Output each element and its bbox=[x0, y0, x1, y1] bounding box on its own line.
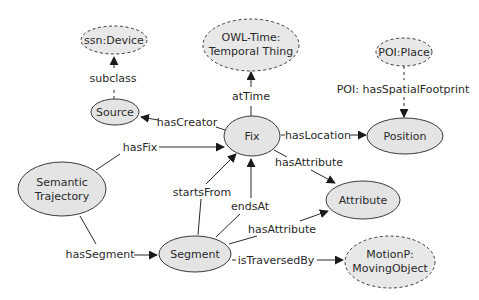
edge-poi-hasSpatialFootprint: POI: hasSpatialFootprint bbox=[337, 66, 470, 117]
node-label-ssn-device: ssn:Device bbox=[84, 34, 144, 47]
edge-label-isTraversedBy: isTraversedBy bbox=[238, 254, 315, 267]
edge-label-fix-hasAttribute: hasAttribute bbox=[275, 156, 343, 169]
node-source: Source bbox=[91, 99, 139, 125]
node-segment: Segment bbox=[159, 236, 231, 272]
edge-label-poi-hasSpatialFootprint: POI: hasSpatialFootprint bbox=[337, 83, 470, 96]
edge-hasFix: hasFix bbox=[96, 141, 224, 170]
edge-hasCreator: hasCreator bbox=[141, 116, 225, 130]
node-position: Position bbox=[367, 118, 443, 154]
node-label-poi-place: POI:Place bbox=[378, 46, 430, 59]
edge-fix-hasAttribute: hasAttribute bbox=[274, 150, 343, 183]
node-label-attribute: Attribute bbox=[339, 194, 388, 207]
edge-atTime: atTime bbox=[232, 72, 270, 116]
edge-startsFrom: startsFrom bbox=[173, 154, 236, 235]
edge-label-hasSegment: hasSegment bbox=[66, 248, 136, 261]
node-semantic-trajectory: Semantic Trajectory bbox=[18, 162, 106, 216]
edge-label-endsAt: endsAt bbox=[231, 200, 270, 213]
ontology-diagram: subclass hasCreator atTime hasLocation P… bbox=[0, 0, 479, 300]
node-label-owl-time-line2: Temporal Thing bbox=[208, 45, 294, 58]
edge-label-hasCreator: hasCreator bbox=[157, 116, 218, 129]
edge-label-segment-hasAttribute: hasAttribute bbox=[248, 223, 316, 236]
node-motionp-movingobject: MotionP: MovingObject bbox=[345, 236, 435, 288]
edge-label-startsFrom: startsFrom bbox=[173, 186, 232, 199]
node-label-segment: Segment bbox=[170, 248, 220, 261]
node-poi-place: POI:Place bbox=[376, 38, 432, 66]
node-fix: Fix bbox=[224, 116, 280, 156]
edge-isTraversedBy: isTraversedBy bbox=[232, 254, 343, 267]
edge-hasLocation: hasLocation bbox=[281, 129, 366, 142]
node-label-motionp-line2: MovingObject bbox=[352, 262, 428, 275]
node-ssn-device: ssn:Device bbox=[81, 26, 147, 54]
node-label-semantic-trajectory-line2: Trajectory bbox=[34, 190, 90, 203]
node-label-motionp-line1: MotionP: bbox=[366, 248, 414, 261]
edge-label-subclass: subclass bbox=[90, 72, 137, 85]
edge-hasSegment: hasSegment bbox=[66, 216, 157, 261]
node-label-position: Position bbox=[384, 130, 427, 143]
edge-segment-hasAttribute: hasAttribute bbox=[229, 211, 328, 244]
node-label-fix: Fix bbox=[244, 130, 260, 143]
node-label-source: Source bbox=[96, 106, 134, 119]
edge-subclass: subclass bbox=[90, 57, 137, 99]
node-label-semantic-trajectory-line1: Semantic bbox=[36, 176, 88, 189]
edge-label-hasFix: hasFix bbox=[123, 141, 158, 154]
node-attribute: Attribute bbox=[326, 181, 400, 219]
node-owl-time: OWL-Time: Temporal Thing bbox=[203, 19, 299, 71]
node-label-owl-time-line1: OWL-Time: bbox=[221, 31, 280, 44]
edge-label-atTime: atTime bbox=[232, 90, 270, 103]
edge-label-hasLocation: hasLocation bbox=[285, 129, 351, 142]
